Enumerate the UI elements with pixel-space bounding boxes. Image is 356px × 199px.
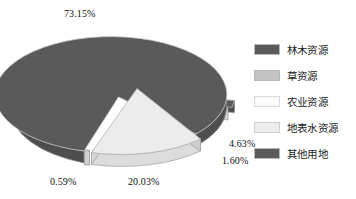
legend-item-label: 其他用地	[287, 146, 328, 161]
legend-item-label: 林木资源	[287, 42, 328, 57]
pie-plot-area: 73.15% 20.03% 0.59% 1.60% 4.63%	[0, 0, 250, 199]
pie-graphic	[0, 0, 250, 199]
legend-swatch-icon	[254, 148, 280, 159]
legend-item-grass: 草资源	[254, 62, 356, 88]
slice-grass	[85, 150, 90, 165]
data-label-other-land: 4.63%	[229, 138, 255, 149]
legend-item-surface-water: 地表水资源	[254, 114, 356, 140]
chart-legend: 林木资源 草资源 农业资源 地表水资源 其他用地	[254, 36, 356, 166]
legend-item-label: 地表水资源	[287, 120, 338, 135]
legend-item-agriculture: 农业资源	[254, 88, 356, 114]
slice-grass-side	[85, 150, 90, 165]
data-label-agriculture: 20.03%	[128, 176, 159, 187]
legend-swatch-icon	[254, 44, 280, 55]
legend-item-label: 草资源	[287, 68, 318, 83]
legend-item-label: 农业资源	[287, 94, 328, 109]
data-label-forest: 73.15%	[64, 8, 95, 19]
legend-swatch-icon	[254, 70, 280, 81]
data-label-grass: 0.59%	[50, 176, 76, 187]
legend-item-forest: 林木资源	[254, 36, 356, 62]
legend-item-other-land: 其他用地	[254, 140, 356, 166]
legend-swatch-icon	[254, 96, 280, 107]
legend-swatch-icon	[254, 122, 280, 133]
data-label-surface-water: 1.60%	[222, 155, 248, 166]
pie-chart: 73.15% 20.03% 0.59% 1.60% 4.63% 林木资源 草资源…	[0, 0, 356, 199]
